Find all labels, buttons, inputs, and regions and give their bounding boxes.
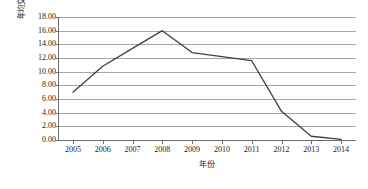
y-axis-tick-label: 2.00 [24, 122, 56, 130]
x-axis-title: 年份 [58, 160, 356, 170]
plot-area [58, 17, 356, 140]
x-axis-tickmark [192, 141, 193, 144]
y-axis-tickmark [55, 126, 58, 127]
y-axis-tickmark [55, 72, 58, 73]
y-axis-tick-label: 6.00 [24, 95, 56, 103]
y-axis-tick-label: 10.00 [24, 68, 56, 76]
y-axis-tick-label: 12.00 [24, 54, 56, 62]
y-axis-tickmark [55, 140, 58, 141]
x-axis-tickmark [222, 141, 223, 144]
y-axis-tick-label: 0.00 [24, 136, 56, 144]
x-axis-tick-labels: 2005200620072008200920102011201220132014 [58, 145, 356, 157]
x-axis-tickmark [311, 141, 312, 144]
x-axis-tick-label: 2014 [321, 145, 361, 155]
y-axis-tick-label: 14.00 [24, 40, 56, 48]
x-axis-tickmark [341, 141, 342, 144]
data-series-line [58, 17, 356, 140]
y-axis-tick-label: 4.00 [24, 109, 56, 117]
x-axis-tickmark [103, 141, 104, 144]
y-axis-tickmark [55, 85, 58, 86]
x-axis-tickmark [133, 141, 134, 144]
x-axis-tickmark [282, 141, 283, 144]
y-axis-tickmark [55, 113, 58, 114]
y-axis-tick-labels: 0.002.004.006.008.0010.0012.0014.0016.00… [24, 0, 56, 189]
x-axis-tickmark [162, 141, 163, 144]
y-axis-tickmark [55, 58, 58, 59]
y-axis-tickmark [55, 17, 58, 18]
y-axis-tickmark [55, 44, 58, 45]
y-axis-tick-label: 16.00 [24, 27, 56, 35]
line-chart: 年均交易价格/美元 0.002.004.006.008.0010.0012.00… [0, 0, 368, 189]
y-axis-tickmark [55, 99, 58, 100]
x-axis-tickmark [73, 141, 74, 144]
y-axis-tick-label: 8.00 [24, 81, 56, 89]
y-axis-tick-label: 18.00 [24, 13, 56, 21]
x-axis-tickmark [252, 141, 253, 144]
y-axis-tickmark [55, 31, 58, 32]
